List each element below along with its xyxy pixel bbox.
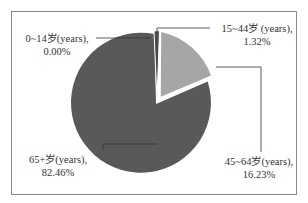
label-45-64: 45~64岁(years), 16.23%	[214, 155, 304, 181]
label-45-64-name: 45~64岁(years),	[214, 155, 304, 168]
label-65-plus-value: 82.46%	[18, 166, 98, 179]
label-65-plus: 65+岁(years), 82.46%	[18, 153, 98, 179]
label-15-44: 15~44岁 (years), 1.32%	[212, 22, 302, 48]
label-0-14-name: 0~14岁(years),	[18, 32, 96, 45]
label-15-44-value: 1.32%	[212, 35, 302, 48]
label-15-44-name: 15~44岁 (years),	[212, 22, 302, 35]
label-0-14: 0~14岁(years), 0.00%	[18, 32, 96, 58]
label-65-plus-name: 65+岁(years),	[18, 153, 98, 166]
leader-45-64	[216, 67, 261, 152]
label-45-64-value: 16.23%	[214, 168, 304, 181]
label-0-14-value: 0.00%	[18, 45, 96, 58]
